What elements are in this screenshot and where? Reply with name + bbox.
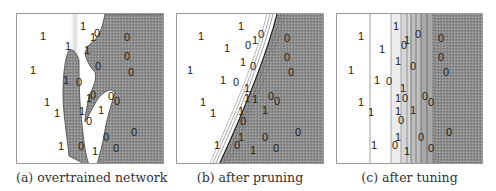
class-0-point: 0 xyxy=(124,32,130,43)
class-0-point: 0 xyxy=(438,52,444,63)
caption-after-tuning: (c) after tuning xyxy=(336,170,483,185)
class-1-point: 1 xyxy=(65,41,71,52)
class-0-point: 0 xyxy=(114,96,120,107)
caption-after-pruning: (b) after pruning xyxy=(176,170,324,185)
class-0-point: 0 xyxy=(103,132,109,143)
class-0-point: 0 xyxy=(233,77,239,88)
class-0-point: 0 xyxy=(443,67,449,78)
class-1-point: 1 xyxy=(210,108,216,119)
panel-overtrained: 1101011010010100011110001010 xyxy=(16,13,164,164)
class-1-point: 1 xyxy=(262,105,268,116)
class-0-point: 0 xyxy=(273,143,279,154)
class-0-point: 0 xyxy=(446,127,452,138)
class-1-point: 1 xyxy=(348,65,354,76)
class-1-point: 1 xyxy=(54,108,60,119)
class-1-point: 1 xyxy=(404,146,410,157)
class-0-point: 0 xyxy=(76,77,82,88)
class-1-point: 1 xyxy=(374,75,380,86)
class-1-point: 1 xyxy=(187,65,193,76)
class-0-point: 0 xyxy=(234,140,240,151)
class-0-point: 0 xyxy=(415,29,421,40)
class-1-point: 1 xyxy=(30,65,36,76)
class-1-point: 1 xyxy=(80,21,86,32)
class-1-point: 1 xyxy=(379,44,385,55)
class-1-point: 1 xyxy=(224,43,230,54)
class-0-point: 0 xyxy=(284,33,290,44)
class-0-point: 0 xyxy=(410,61,416,72)
class-0-point: 0 xyxy=(392,140,398,151)
panel-after-tuning: 1110001100011011000111100101010 xyxy=(336,13,483,164)
class-0-point: 0 xyxy=(438,33,444,44)
class-1-point: 1 xyxy=(395,93,401,104)
class-0-point: 0 xyxy=(428,97,434,108)
class-1-point: 1 xyxy=(198,31,204,42)
class-1-point: 1 xyxy=(238,21,244,32)
class-1-point: 1 xyxy=(84,45,90,56)
class-1-point: 1 xyxy=(410,105,416,116)
class-1-point: 1 xyxy=(395,56,401,67)
class-0-point: 0 xyxy=(78,141,84,152)
class-1-point: 1 xyxy=(252,94,258,105)
class-1-point: 1 xyxy=(220,75,226,86)
class-0-point: 0 xyxy=(131,127,137,138)
class-0-point: 0 xyxy=(95,61,101,72)
class-0-point: 0 xyxy=(90,90,96,101)
class-0-point: 0 xyxy=(245,40,251,51)
class-1-point: 1 xyxy=(368,107,374,118)
class-1-point: 1 xyxy=(244,93,250,104)
class-0-point: 0 xyxy=(274,96,280,107)
class-0-point: 0 xyxy=(386,76,392,87)
class-1-point: 1 xyxy=(393,21,399,32)
class-0-point: 0 xyxy=(240,116,246,127)
class-1-point: 1 xyxy=(90,32,96,43)
caption-overtrained: (a) overtrained network xyxy=(16,170,164,185)
class-1-point: 1 xyxy=(200,97,206,108)
class-0-point: 0 xyxy=(113,143,119,154)
class-0-point: 0 xyxy=(250,61,256,72)
class-0-point: 0 xyxy=(418,132,424,143)
class-1-point: 1 xyxy=(44,97,50,108)
class-1-point: 1 xyxy=(214,140,220,151)
class-0-point: 0 xyxy=(124,51,130,62)
class-1-point: 1 xyxy=(240,57,246,68)
class-1-point: 1 xyxy=(358,97,364,108)
class-0-point: 0 xyxy=(398,115,404,126)
class-1-point: 1 xyxy=(40,31,46,42)
class-0-point: 0 xyxy=(86,116,92,127)
class-1-point: 1 xyxy=(79,106,85,117)
class-1-point: 1 xyxy=(98,105,104,116)
class-1-point: 1 xyxy=(92,146,98,157)
class-1-point: 1 xyxy=(63,75,69,86)
class-0-point: 0 xyxy=(258,29,264,40)
class-1-point: 1 xyxy=(358,31,364,42)
class-1-point: 1 xyxy=(250,145,256,156)
class-1-point: 1 xyxy=(58,141,64,152)
class-0-point: 0 xyxy=(401,40,407,51)
class-0-point: 0 xyxy=(128,67,134,78)
class-0-point: 0 xyxy=(288,67,294,78)
class-1-point: 1 xyxy=(371,140,377,151)
class-0-point: 0 xyxy=(295,127,301,138)
class-0-point: 0 xyxy=(284,52,290,63)
class-0-point: 0 xyxy=(428,143,434,154)
panel-after-pruning: 1110001100011011100111100101010 xyxy=(176,13,324,164)
class-0-point: 0 xyxy=(262,132,268,143)
class-0-point: 0 xyxy=(402,93,408,104)
